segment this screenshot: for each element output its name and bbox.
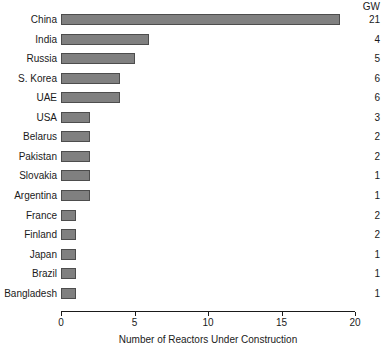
bar: [61, 190, 90, 201]
chart-row: Argentina1: [0, 190, 387, 210]
chart-row: Bangladesh1: [0, 288, 387, 308]
bar-chart: GW China21India4Russia5S. Korea6UAE6USA3…: [0, 0, 387, 354]
category-label: Bangladesh: [0, 288, 57, 300]
category-label: China: [0, 14, 57, 26]
chart-row: Belarus2: [0, 131, 387, 151]
x-tick-label: 5: [120, 317, 150, 329]
category-label: Brazil: [0, 268, 57, 280]
x-tick-label: 0: [46, 317, 76, 329]
gw-value: 4: [374, 34, 380, 46]
bar: [61, 288, 76, 299]
gw-value: 5: [374, 53, 380, 65]
category-label: UAE: [0, 92, 57, 104]
chart-row: Brazil1: [0, 268, 387, 288]
gw-value: 2: [374, 151, 380, 163]
bar: [61, 112, 90, 123]
gw-value: 1: [374, 249, 380, 261]
bar: [61, 268, 76, 279]
gw-value: 1: [374, 170, 380, 182]
bar: [61, 249, 76, 260]
gw-value: 21: [369, 14, 380, 26]
category-label: India: [0, 34, 57, 46]
gw-value: 1: [374, 190, 380, 202]
gw-value: 1: [374, 268, 380, 280]
chart-row: Russia5: [0, 53, 387, 73]
chart-row: China21: [0, 14, 387, 34]
bar: [61, 73, 120, 84]
category-label: Slovakia: [0, 170, 57, 182]
gw-value: 2: [374, 210, 380, 222]
category-label: Japan: [0, 249, 57, 261]
category-label: USA: [0, 112, 57, 124]
x-axis-title: Number of Reactors Under Construction: [61, 334, 355, 346]
chart-row: India4: [0, 34, 387, 54]
category-label: France: [0, 210, 57, 222]
gw-value: 2: [374, 131, 380, 143]
x-tick: [61, 312, 62, 316]
gw-value: 6: [374, 73, 380, 85]
x-tick: [355, 312, 356, 316]
x-tick: [282, 312, 283, 316]
bar: [61, 229, 76, 240]
gw-value: 2: [374, 229, 380, 241]
gw-value: 1: [374, 288, 380, 300]
gw-value: 6: [374, 92, 380, 104]
chart-row: S. Korea6: [0, 73, 387, 93]
gw-value: 3: [374, 112, 380, 124]
bar: [61, 53, 135, 64]
bar: [61, 14, 340, 25]
category-label: Russia: [0, 53, 57, 65]
plot-area: China21India4Russia5S. Korea6UAE6USA3Bel…: [0, 14, 387, 311]
chart-row: Slovakia1: [0, 170, 387, 190]
x-tick: [135, 312, 136, 316]
gw-column-header: GW: [363, 1, 380, 13]
bar: [61, 170, 90, 181]
chart-row: Japan1: [0, 249, 387, 269]
x-tick-label: 20: [340, 317, 370, 329]
chart-row: USA3: [0, 112, 387, 132]
category-label: S. Korea: [0, 73, 57, 85]
category-label: Pakistan: [0, 151, 57, 163]
bar: [61, 92, 120, 103]
bar: [61, 210, 76, 221]
x-tick: [208, 312, 209, 316]
category-label: Argentina: [0, 190, 57, 202]
x-tick-label: 10: [193, 317, 223, 329]
bar: [61, 34, 149, 45]
chart-row: Pakistan2: [0, 151, 387, 171]
category-label: Finland: [0, 229, 57, 241]
chart-row: Finland2: [0, 229, 387, 249]
x-tick-label: 15: [267, 317, 297, 329]
category-label: Belarus: [0, 131, 57, 143]
chart-row: France2: [0, 210, 387, 230]
bar: [61, 131, 90, 142]
bar: [61, 151, 90, 162]
chart-row: UAE6: [0, 92, 387, 112]
